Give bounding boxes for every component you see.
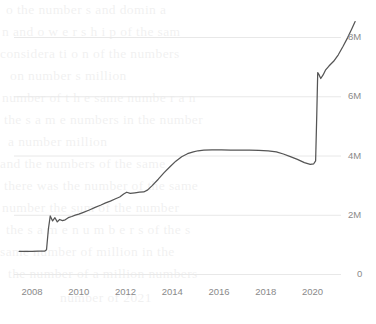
y-axis-tick-label: 8M	[348, 31, 361, 42]
x-axis-tick-label: 2010	[59, 286, 99, 297]
x-axis-tick-label: 2020	[293, 286, 333, 297]
y-axis-tick-label: 0	[357, 268, 362, 279]
y-axis-tick-label: 2M	[348, 209, 361, 220]
x-axis-tick-label: 2012	[106, 286, 146, 297]
x-axis-tick-label: 2016	[199, 286, 239, 297]
x-axis-tick-label: 2014	[152, 286, 192, 297]
data-line-series-value	[19, 22, 355, 252]
plot-area	[0, 0, 376, 324]
x-axis-tick-label: 2018	[246, 286, 286, 297]
chart-container: o the number s and domin a n and o w e r…	[0, 0, 376, 324]
gridlines	[14, 38, 341, 275]
y-axis-tick-label: 6M	[348, 90, 361, 101]
x-axis-tick-label: 2008	[12, 286, 52, 297]
y-axis-tick-label: 4M	[348, 150, 361, 161]
